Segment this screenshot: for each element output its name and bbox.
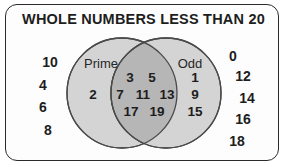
odd-set-label: Odd: [178, 57, 203, 70]
intersection-value: 5: [148, 71, 156, 85]
outside-value: 10: [42, 55, 58, 69]
intersection-value: 19: [149, 105, 164, 119]
odd-only-value: 1: [191, 71, 199, 85]
outside-value: 16: [235, 112, 251, 126]
intersection-value: 3: [126, 71, 134, 85]
outside-value: 4: [39, 78, 47, 92]
intersection-value: 11: [136, 88, 150, 102]
odd-only-value: 9: [191, 88, 199, 102]
outside-value: 18: [229, 134, 245, 148]
prime-set-label: Prime: [84, 57, 118, 70]
prime-only-value: 2: [89, 88, 97, 102]
outside-value: 8: [44, 123, 52, 137]
outside-value: 6: [39, 100, 47, 114]
intersection-value: 17: [123, 105, 138, 119]
venn-diagram-figure: WHOLE NUMBERS LESS THAN 20 Prime Odd 2 3…: [0, 0, 287, 167]
outside-value: 12: [235, 69, 251, 83]
odd-only-value: 15: [187, 105, 202, 119]
outside-value: 14: [239, 91, 255, 105]
intersection-value: 7: [116, 88, 124, 102]
intersection-value: 13: [159, 88, 174, 102]
outside-value: 0: [229, 49, 237, 63]
